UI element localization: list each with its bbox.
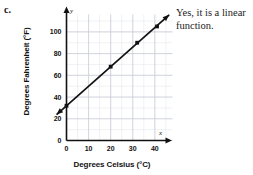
y-tick-label: 60	[54, 72, 62, 79]
answer-text: Yes, it is a linear function.	[176, 6, 252, 32]
x-tick-label: 40	[151, 145, 159, 152]
y-variable-label: y	[69, 7, 74, 15]
grid-minor	[67, 15, 173, 141]
plot-area: 020406080100010203040 y x	[0, 0, 176, 175]
x-tick-label: 10	[85, 145, 93, 152]
data-point-marker	[155, 25, 159, 29]
x-tick-label: 20	[107, 145, 115, 152]
y-tick-label: 100	[50, 28, 62, 35]
x-tick-label: 0	[65, 145, 69, 152]
y-tick-label: 0	[58, 137, 62, 144]
data-point-marker	[65, 104, 69, 108]
data-point-marker	[135, 41, 139, 45]
y-tick-label: 80	[54, 50, 62, 57]
x-variable-label: x	[158, 129, 163, 137]
x-tick-label: 30	[129, 145, 137, 152]
graph-figure: Degrees Fahrenheit (°F) Degrees Celsius …	[0, 0, 176, 175]
y-tick-label: 20	[54, 115, 62, 122]
data-point-marker	[109, 65, 113, 69]
y-tick-label: 40	[54, 94, 62, 101]
grid-major	[67, 15, 173, 141]
